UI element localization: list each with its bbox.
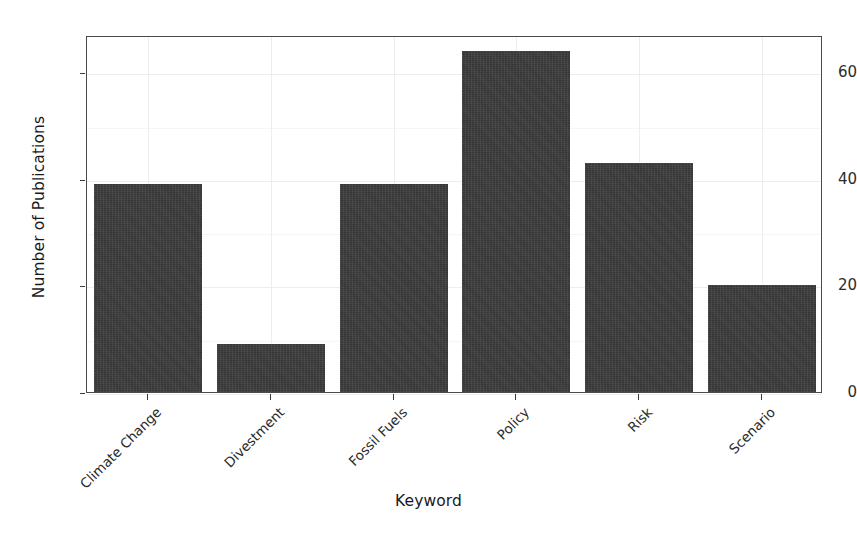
x-tick-mark (638, 394, 639, 400)
bar (94, 184, 202, 392)
x-tick-mark (515, 394, 516, 400)
x-tick-label: Climate Change (12, 404, 165, 538)
y-tick-label: 60 (789, 63, 857, 81)
y-tick-mark (80, 286, 85, 287)
bar (340, 184, 448, 392)
x-tick-label-text: Scenario (725, 404, 778, 457)
bar (462, 51, 570, 392)
x-axis-title: Keyword (0, 492, 857, 510)
x-tick-label-text: Fossil Fuels (345, 404, 410, 469)
y-tick-mark (80, 180, 85, 181)
y-tick-mark (80, 393, 85, 394)
bars-layer (87, 37, 821, 392)
x-tick-label: Divestment (135, 404, 288, 538)
gridline-horizontal (87, 394, 821, 395)
plot-panel (86, 36, 822, 393)
bar-chart-figure: Number of Publications 0204060 Climate C… (0, 0, 857, 538)
y-axis-title: Number of Publications (30, 92, 48, 322)
x-tick-label: Risk (503, 404, 656, 538)
x-tick-label: Fossil Fuels (257, 404, 410, 538)
y-tick-label: 0 (789, 383, 857, 401)
x-tick-label-text: Climate Change (77, 404, 165, 492)
bar (217, 344, 325, 392)
y-tick-label: 40 (789, 170, 857, 188)
x-tick-label: Policy (380, 404, 533, 538)
x-tick-mark (393, 394, 394, 400)
x-tick-mark (761, 394, 762, 400)
x-tick-label-text: Risk (624, 404, 655, 435)
x-tick-label-text: Divestment (221, 404, 288, 471)
bar (708, 285, 816, 392)
x-tick-label: Scenario (625, 404, 778, 538)
x-tick-mark (147, 394, 148, 400)
bar (585, 163, 693, 392)
x-tick-mark (270, 394, 271, 400)
x-tick-label-text: Policy (494, 404, 533, 443)
y-tick-label: 20 (789, 276, 857, 294)
y-tick-mark (80, 73, 85, 74)
